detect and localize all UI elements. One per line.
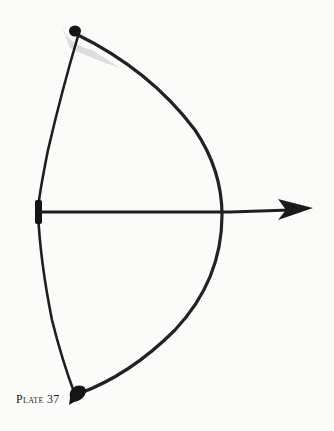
plate-caption: Plate 37 — [16, 392, 60, 407]
bow-limb — [76, 34, 222, 394]
bow-and-arrow-illustration — [0, 0, 334, 431]
book-plate-page: Plate 37 — [0, 0, 334, 431]
bow-string — [38, 36, 78, 392]
upper-tip-knob — [69, 26, 81, 37]
arrow-shaft — [40, 210, 290, 212]
